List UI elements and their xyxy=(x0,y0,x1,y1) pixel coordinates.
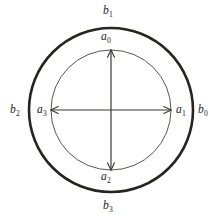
label-b3-base: b xyxy=(103,199,109,211)
label-a2-subscript: 2 xyxy=(107,176,111,185)
label-b0-subscript: 0 xyxy=(204,109,208,118)
label-b0-base: b xyxy=(198,103,204,115)
label-b3: b3 xyxy=(103,200,113,212)
label-a0-subscript: 0 xyxy=(107,36,111,45)
label-b2-base: b xyxy=(10,103,16,115)
label-b0: b0 xyxy=(198,104,208,116)
figure-container: a0 a1 a2 a3 b0 b1 b2 b3 xyxy=(0,0,223,221)
label-a3-subscript: 3 xyxy=(43,109,47,118)
label-a1: a1 xyxy=(176,104,186,116)
label-b1-base: b xyxy=(103,4,109,16)
label-a3-base: a xyxy=(37,103,43,115)
label-a2-base: a xyxy=(101,170,107,182)
label-b2-subscript: 2 xyxy=(16,109,20,118)
label-b2: b2 xyxy=(10,104,20,116)
concentric-circles-diagram xyxy=(0,0,223,221)
label-a3: a3 xyxy=(37,104,47,116)
label-a0-base: a xyxy=(101,30,107,42)
label-a1-base: a xyxy=(176,103,182,115)
label-b1: b1 xyxy=(103,5,113,17)
label-a1-subscript: 1 xyxy=(182,109,186,118)
label-a2: a2 xyxy=(101,171,111,183)
label-a0: a0 xyxy=(101,31,111,43)
label-b3-subscript: 3 xyxy=(109,205,113,214)
label-b1-subscript: 1 xyxy=(109,10,113,19)
